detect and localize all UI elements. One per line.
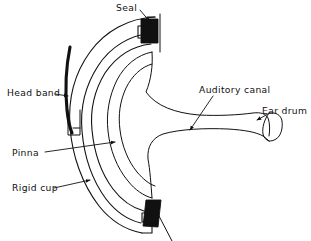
label-head-band: Head band	[7, 87, 60, 98]
head-band-arc	[66, 47, 72, 133]
canal-right-cap	[269, 113, 282, 141]
label-rigid-cup: Rigid cup	[12, 182, 58, 193]
pinna-outline	[107, 52, 155, 198]
seal-group	[141, 14, 172, 241]
label-seal: Seal	[116, 2, 137, 13]
canal-lower-wall	[148, 129, 269, 198]
pinna-upper-curve	[107, 52, 152, 198]
auditory-canal-group	[146, 52, 282, 198]
label-pinna: Pinna	[12, 147, 39, 158]
diagram-canvas: Seal Head band Pinna Rigid cup Auditory …	[0, 0, 311, 241]
label-auditory-canal: Auditory canal	[199, 84, 270, 95]
ear-defender-diagram: Seal Head band Pinna Rigid cup Auditory …	[0, 0, 311, 241]
auditory-canal-leader-line	[190, 96, 213, 130]
seal-block-bottom	[143, 200, 161, 227]
label-ear-drum: Ear drum	[262, 105, 307, 116]
pinna-leader-line	[45, 142, 115, 152]
head-band-group	[66, 47, 80, 135]
seal-block-top	[141, 19, 158, 43]
rigid-cup-leader-line	[54, 180, 90, 188]
rigid-cup-outline	[70, 17, 155, 233]
seal-bottom-leader	[159, 216, 172, 241]
